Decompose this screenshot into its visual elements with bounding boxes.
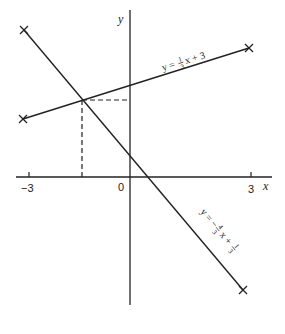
svg-text:3: 3: [180, 63, 186, 72]
origin-label: 0: [118, 181, 124, 193]
endpoint-marker-icon: [20, 26, 28, 34]
svg-text:3: 3: [226, 247, 235, 255]
x-axis-label: x: [262, 179, 269, 193]
line-minus-four-thirds: [24, 30, 243, 290]
endpoint-marker-icon: [19, 115, 27, 123]
equation-label-line-minus-four-thirds: y = − 4 3 x + 1 3: [195, 206, 241, 256]
line-one-third: [23, 48, 249, 119]
x-tick-label-neg3: −3: [21, 182, 34, 194]
svg-text:x + 3: x + 3: [183, 49, 206, 66]
diagram-canvas: −3 3 0 x y y = 1 3 x + 3 y = − 4 3 x + 1…: [0, 0, 285, 334]
x-tick-label-3: 3: [248, 183, 254, 195]
y-axis-label: y: [117, 12, 124, 26]
endpoint-marker-icon: [245, 44, 253, 52]
svg-text:x +: x +: [218, 229, 235, 246]
endpoint-marker-icon: [239, 286, 247, 294]
svg-text:y =: y =: [160, 58, 176, 72]
